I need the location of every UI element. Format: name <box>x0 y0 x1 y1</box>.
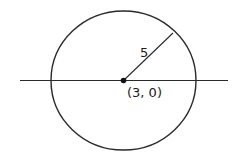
center-point <box>121 78 127 84</box>
center-label: (3, 0) <box>127 85 162 100</box>
circle-diagram: 5 (3, 0) <box>0 0 240 155</box>
radius-label: 5 <box>140 45 148 60</box>
